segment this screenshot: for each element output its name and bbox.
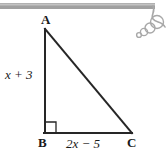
bubble-icon-4: [137, 33, 142, 38]
page-edge-bar-highlight: [0, 4, 155, 6]
bubble-group: [137, 16, 164, 38]
triangle-hypotenuse-AC: [45, 29, 132, 133]
side-label-bc: 2x − 5: [66, 137, 100, 150]
right-angle-marker: [45, 122, 56, 133]
geometry-figure: A B C x + 3 2x − 5: [0, 0, 167, 161]
vertex-label-b: B: [38, 136, 47, 149]
vertex-label-a: A: [41, 13, 50, 26]
side-label-ab: x + 3: [5, 68, 33, 81]
vertex-label-c: C: [127, 136, 136, 149]
